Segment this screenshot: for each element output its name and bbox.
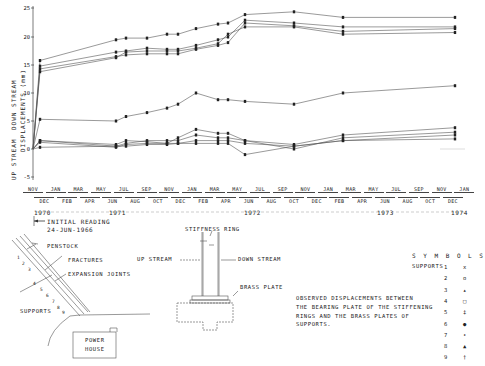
data-point-marker — [293, 25, 295, 28]
data-point-marker — [146, 37, 148, 40]
month-label: MAR — [205, 186, 225, 193]
data-point-marker — [227, 136, 229, 139]
data-point-marker — [293, 103, 295, 106]
data-point-marker — [146, 50, 148, 53]
data-point-marker — [227, 139, 229, 142]
legend-symbol-icon: □ — [463, 298, 466, 304]
month-label: DEC — [34, 197, 54, 204]
data-point-marker — [454, 126, 456, 129]
data-point-marker — [342, 134, 344, 137]
month-label: MAY — [91, 186, 111, 193]
support-number: 2 — [22, 262, 25, 267]
month-label: MAR — [341, 186, 361, 193]
data-point-marker — [454, 137, 456, 140]
expansion-joints-label: EXPANSION JOINTS — [68, 272, 131, 278]
data-point-marker — [293, 148, 295, 151]
data-point-marker — [227, 33, 229, 36]
legend-symbol-icon: o — [463, 275, 466, 281]
year-1974: 1974 — [451, 210, 468, 216]
stiffness-ring-diagram — [177, 231, 238, 330]
data-point-marker — [39, 67, 41, 70]
month-label: NOV — [23, 186, 43, 193]
data-point-marker — [217, 23, 219, 26]
data-point-marker — [115, 51, 117, 54]
month-label: OCT — [148, 197, 168, 204]
power-house-label-2: HOUSE — [85, 347, 105, 353]
data-point-marker — [244, 13, 246, 16]
data-point-marker — [227, 41, 229, 44]
data-point-marker — [177, 136, 179, 139]
legend-symbol-icon: † — [463, 354, 466, 360]
data-point-marker — [244, 25, 246, 28]
series-line-support-3 — [33, 23, 455, 149]
data-point-marker — [244, 22, 246, 25]
data-point-marker — [342, 16, 344, 19]
legend-support-number: 4 — [444, 298, 447, 304]
data-point-marker — [177, 142, 179, 145]
data-point-marker — [177, 103, 179, 106]
month-label: MAY — [227, 186, 247, 193]
data-point-marker — [293, 145, 295, 148]
y-tick-15: 15 — [16, 62, 30, 68]
month-label: JUN — [102, 197, 122, 204]
data-point-marker — [146, 139, 148, 142]
legend-symbol-icon: • — [463, 332, 466, 338]
data-point-marker — [454, 84, 456, 87]
data-point-marker — [342, 136, 344, 139]
data-point-marker — [115, 38, 117, 41]
data-point-marker — [125, 51, 127, 54]
data-point-marker — [166, 143, 168, 146]
data-point-marker — [125, 139, 127, 142]
month-label: OCT — [284, 197, 304, 204]
data-point-marker — [195, 27, 197, 30]
y-tick-20: 20 — [16, 34, 30, 40]
legend-support-number: 7 — [444, 332, 447, 338]
data-point-marker — [227, 22, 229, 25]
data-point-marker — [195, 134, 197, 137]
initial-reading-date: 24-JUN-1966 — [47, 227, 93, 233]
data-point-marker — [125, 115, 127, 118]
support-number: 7 — [52, 300, 55, 305]
data-point-marker — [244, 139, 246, 142]
month-label: DEC — [443, 197, 463, 204]
data-point-marker — [244, 19, 246, 22]
data-point-marker — [195, 142, 197, 145]
data-point-marker — [342, 30, 344, 33]
data-point-marker — [166, 139, 168, 142]
legend-support-number: 1 — [444, 264, 447, 270]
brass-plate-label: BRASS PLATE — [240, 285, 283, 291]
data-point-marker — [217, 42, 219, 45]
data-point-marker — [115, 56, 117, 59]
downstream-label: DOWN STREAM — [238, 257, 281, 263]
data-point-marker — [342, 25, 344, 28]
month-label: APR — [80, 197, 100, 204]
month-label: SEP — [409, 186, 429, 193]
month-label: OCT — [420, 197, 440, 204]
data-point-marker — [146, 143, 148, 146]
month-label: APR — [352, 197, 372, 204]
stiffness-ring-label: STIFFNESS RING — [185, 227, 240, 233]
month-label: FEB — [57, 197, 77, 204]
legend-symbol-icon: ● — [463, 321, 466, 327]
year-1971: 1971 — [109, 210, 126, 216]
data-point-marker — [217, 136, 219, 139]
data-point-marker — [244, 100, 246, 103]
data-point-marker — [217, 132, 219, 135]
support-number: 5 — [40, 288, 43, 293]
month-label: JUL — [386, 186, 406, 193]
data-point-marker — [115, 120, 117, 123]
month-label: NOV — [295, 186, 315, 193]
penstock-diagram — [12, 234, 150, 358]
y-tick-25: 25 — [16, 5, 30, 11]
data-point-marker — [217, 98, 219, 101]
data-point-marker — [454, 27, 456, 30]
data-point-marker — [39, 59, 41, 62]
power-house-label-1: POWER — [85, 338, 105, 344]
legend-symbol-icon: ▴ — [463, 287, 466, 293]
legend-support-number: 9 — [444, 354, 447, 360]
data-point-marker — [39, 65, 41, 68]
data-point-marker — [177, 50, 179, 53]
support-number: 6 — [46, 294, 49, 299]
data-point-marker — [125, 37, 127, 40]
